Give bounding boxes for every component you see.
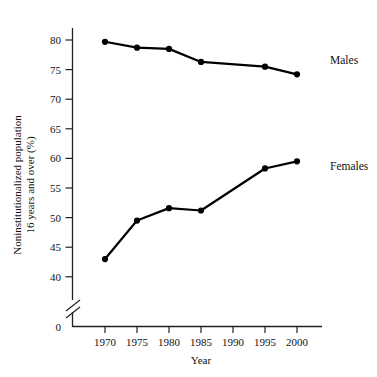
y-tick-label-75: 75 <box>50 64 62 76</box>
x-tick-label-1980: 1980 <box>158 336 181 348</box>
data-point-males-1975 <box>134 45 140 51</box>
y-tick-label-65: 65 <box>50 123 62 135</box>
x-tick-label-1975: 1975 <box>126 336 149 348</box>
chart-container: 80 75 70 65 60 55 50 45 40 0 1970 1975 <box>0 0 377 377</box>
y-tick-label-55: 55 <box>50 182 62 194</box>
x-tick-label-2000: 2000 <box>286 336 309 348</box>
y-axis-title-line2: 16 years and over (%) <box>24 136 37 233</box>
data-point-males-1995 <box>262 64 268 70</box>
y-tick-label-80: 80 <box>50 34 62 46</box>
series-label-females: Females <box>330 160 369 172</box>
data-point-males-2000 <box>294 71 300 77</box>
data-point-females-1985 <box>198 207 204 213</box>
x-tick-label-1970: 1970 <box>94 336 117 348</box>
y-axis-title-line1: Noninstitutionalized population <box>11 115 23 255</box>
line-chart: 80 75 70 65 60 55 50 45 40 0 1970 1975 <box>0 0 377 377</box>
data-point-males-1985 <box>198 59 204 65</box>
series-label-males: Males <box>330 54 359 66</box>
y-tick-label-45: 45 <box>50 241 62 253</box>
x-tick-label-1995: 1995 <box>254 336 277 348</box>
data-point-females-1980 <box>166 205 172 211</box>
y-tick-label-60: 60 <box>50 152 62 164</box>
x-tick-label-1990: 1990 <box>222 336 245 348</box>
y-tick-label-50: 50 <box>50 212 62 224</box>
data-point-females-2000 <box>294 158 300 164</box>
data-point-females-1995 <box>262 165 268 171</box>
x-tick-label-1985: 1985 <box>190 336 213 348</box>
data-point-males-1970 <box>102 39 108 45</box>
data-point-males-1980 <box>166 46 172 52</box>
y-tick-label-70: 70 <box>50 93 62 105</box>
y-tick-label-0: 0 <box>56 321 62 333</box>
y-tick-label-40: 40 <box>50 271 62 283</box>
data-point-females-1970 <box>102 256 108 262</box>
data-point-females-1975 <box>134 217 140 223</box>
x-axis-title: Year <box>191 354 212 366</box>
